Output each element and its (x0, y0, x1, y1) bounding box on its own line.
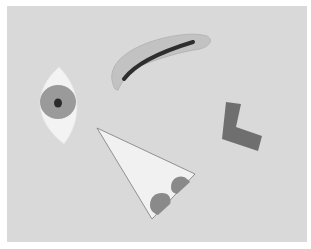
l-shape-cutout (222, 102, 262, 151)
triangle-cutout (97, 128, 195, 219)
eyebrow-cutout (112, 34, 211, 90)
cutout-scene (0, 0, 311, 249)
eye-cutout (40, 67, 77, 144)
